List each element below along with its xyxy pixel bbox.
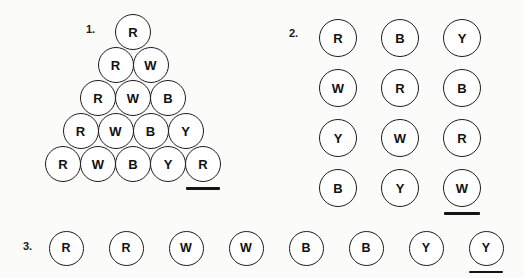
token-r[interactable]: R xyxy=(63,113,99,149)
token-b[interactable]: B xyxy=(349,231,384,266)
answer-underline xyxy=(186,187,220,190)
token-w[interactable]: W xyxy=(443,169,481,207)
token-b[interactable]: B xyxy=(443,69,481,107)
token-r[interactable]: R xyxy=(185,146,221,182)
token-b[interactable]: B xyxy=(150,80,186,116)
token-w[interactable]: W xyxy=(229,231,264,266)
token-y[interactable]: Y xyxy=(150,146,186,182)
token-y[interactable]: Y xyxy=(168,113,204,149)
token-r[interactable]: R xyxy=(49,231,84,266)
token-r[interactable]: R xyxy=(319,19,357,57)
token-y[interactable]: Y xyxy=(443,19,481,57)
panel-label-2: 2. xyxy=(289,27,298,39)
token-r[interactable]: R xyxy=(45,146,81,182)
token-w[interactable]: W xyxy=(319,69,357,107)
token-b[interactable]: B xyxy=(133,113,169,149)
answer-underline xyxy=(469,271,502,274)
token-r[interactable]: R xyxy=(98,47,134,83)
panel-label-1: 1. xyxy=(86,23,95,35)
token-r[interactable]: R xyxy=(443,119,481,157)
token-y[interactable]: Y xyxy=(319,119,357,157)
token-w[interactable]: W xyxy=(169,231,204,266)
token-r[interactable]: R xyxy=(381,69,419,107)
token-b[interactable]: B xyxy=(381,19,419,57)
token-w[interactable]: W xyxy=(98,113,134,149)
panel-label-3: 3. xyxy=(23,240,32,252)
token-w[interactable]: W xyxy=(115,80,151,116)
token-y[interactable]: Y xyxy=(381,169,419,207)
token-r[interactable]: R xyxy=(115,14,151,50)
token-y[interactable]: Y xyxy=(469,231,504,266)
token-w[interactable]: W xyxy=(133,47,169,83)
token-r[interactable]: R xyxy=(80,80,116,116)
token-r[interactable]: R xyxy=(109,231,144,266)
token-w[interactable]: W xyxy=(381,119,419,157)
token-b[interactable]: B xyxy=(319,169,357,207)
token-b[interactable]: B xyxy=(289,231,324,266)
token-y[interactable]: Y xyxy=(409,231,444,266)
token-w[interactable]: W xyxy=(80,146,116,182)
answer-underline xyxy=(444,212,480,215)
token-b[interactable]: B xyxy=(115,146,151,182)
puzzle-canvas: 1.RRWRWBRWBYRWBYR2.RBYWRBYWRBYW3.RRWWBBY… xyxy=(0,0,524,278)
